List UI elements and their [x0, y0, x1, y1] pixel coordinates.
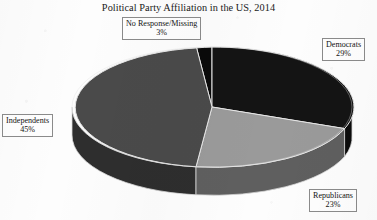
chart-title: Political Party Affiliation in the US, 2…: [0, 2, 377, 13]
pie-label-democrats-text: Democrats: [326, 40, 361, 49]
pie-label-no-response[interactable]: No Response/Missing 3%: [122, 17, 201, 40]
pie-label-no-response-text: No Response/Missing: [126, 19, 197, 28]
pie-label-democrats[interactable]: Democrats 29%: [322, 38, 365, 61]
pie-label-republicans-value: 23%: [313, 200, 353, 209]
pie-label-independents-value: 45%: [6, 125, 49, 134]
pie-label-independents[interactable]: Independents 45%: [2, 114, 53, 137]
pie-label-democrats-value: 29%: [326, 49, 361, 58]
pie-chart-figure: Political Party Affiliation in the US, 2…: [0, 0, 377, 220]
pie-label-no-response-value: 3%: [126, 28, 197, 37]
pie-label-republicans-text: Republicans: [313, 191, 353, 200]
pie-label-independents-text: Independents: [6, 116, 49, 125]
pie-label-republicans[interactable]: Republicans 23%: [309, 189, 357, 212]
